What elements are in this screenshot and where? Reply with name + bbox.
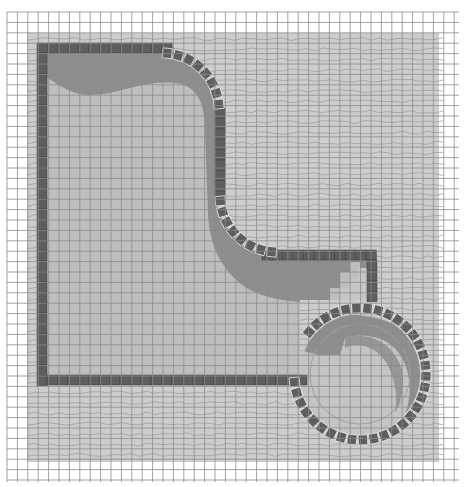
pool-plan bbox=[0, 0, 467, 487]
